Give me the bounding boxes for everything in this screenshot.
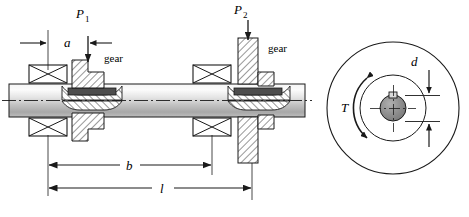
- dimension-l-label: l: [160, 181, 164, 196]
- section-shaft: [380, 95, 406, 121]
- load-p1-label: P: [75, 6, 84, 21]
- gear-left-hub-lower: [62, 101, 122, 110]
- dimension-a-label: a: [64, 35, 71, 50]
- torque-label: T: [341, 100, 349, 115]
- shaft-assembly-figure: P 1 P 2 gear gear a b: [0, 0, 469, 217]
- gear-right-lower-web: [238, 117, 258, 163]
- gear-left-upper-web: [72, 60, 104, 88]
- bearing-right-lower: [193, 118, 231, 136]
- gear-right-hub: [228, 86, 290, 100]
- gear-right-step-upper: [258, 72, 274, 86]
- gear-right-hub-lower: [228, 101, 290, 110]
- gear-left-label: gear: [104, 52, 123, 64]
- bearing-left-lower: [29, 118, 67, 136]
- gear-left-key: [68, 88, 116, 95]
- figure-canvas: P 1 P 2 gear gear a b: [0, 0, 469, 217]
- load-p2-label: P: [233, 2, 242, 17]
- load-p1-subscript: 1: [85, 14, 90, 24]
- load-p2-subscript: 2: [243, 10, 248, 20]
- gear-right-upper-web: [238, 38, 258, 84]
- dimension-l: l: [49, 163, 252, 200]
- diameter-label: d: [411, 54, 418, 69]
- side-view: P 1 P 2 gear gear a b: [2, 2, 312, 200]
- gear-right-label: gear: [268, 42, 287, 54]
- bearing-right-upper: [193, 65, 231, 83]
- gear-right-key: [234, 88, 282, 95]
- dimension-b-label: b: [126, 158, 133, 173]
- section-view: T d: [327, 42, 459, 174]
- section-keyway: [389, 92, 397, 98]
- dimension-a: a: [20, 30, 112, 70]
- dimension-b: b: [48, 135, 212, 196]
- gear-left-lower-web: [72, 113, 104, 141]
- gear-right-step-lower: [258, 115, 274, 129]
